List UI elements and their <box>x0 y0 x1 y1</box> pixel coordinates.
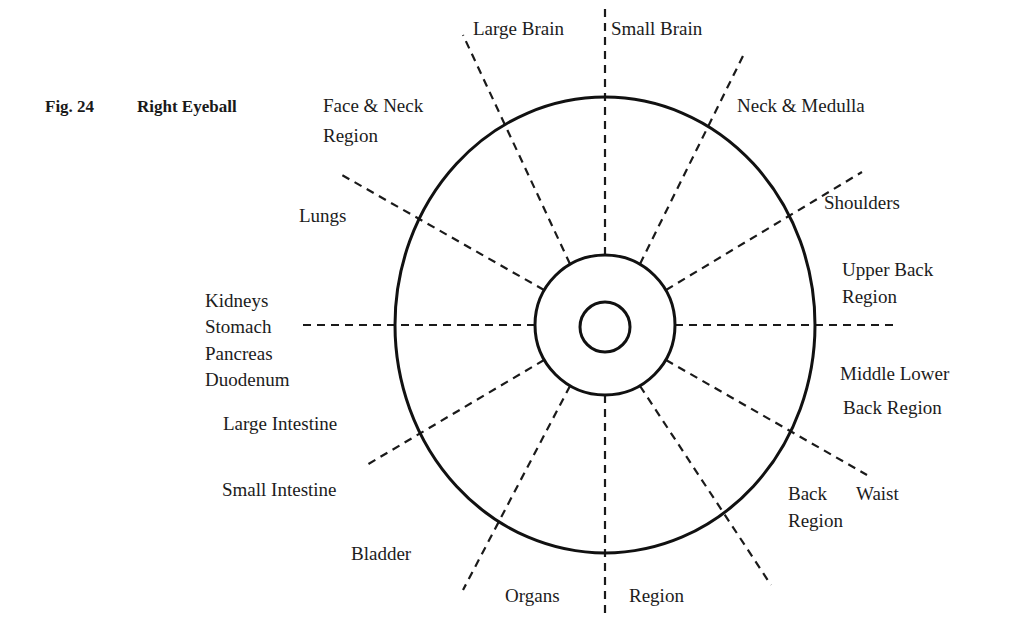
label-organs: Organs <box>505 585 560 606</box>
spoke-upper-left-60 <box>463 35 570 264</box>
label-neck-medulla: Neck & Medulla <box>737 95 865 116</box>
label-lungs: Lungs <box>299 205 347 226</box>
spoke-lower-left-30 <box>365 360 544 466</box>
label-upper-back-line2: Region <box>842 286 897 307</box>
label-small-brain: Small Brain <box>611 18 703 39</box>
label-stomach: Stomach <box>205 316 272 337</box>
label-region-bottom: Region <box>629 585 684 606</box>
middle-ring <box>535 255 675 395</box>
spoke-upper-left-30 <box>342 175 544 290</box>
label-duodenum: Duodenum <box>205 369 290 390</box>
spoke-upper-right-60 <box>640 56 743 264</box>
label-bladder: Bladder <box>351 543 412 564</box>
iridology-diagram: Fig. 24 Right Eyeball Large Brain Small … <box>0 0 1019 635</box>
label-large-intestine: Large Intestine <box>223 413 337 434</box>
label-back-region: Region <box>788 510 843 531</box>
label-large-brain: Large Brain <box>473 18 564 39</box>
figure-title: Right Eyeball <box>137 97 237 116</box>
label-middle-lower-line1: Middle Lower <box>840 363 950 384</box>
label-back: Back <box>788 483 828 504</box>
label-middle-lower-line2: Back Region <box>843 397 942 418</box>
spoke-lower-right-30 <box>666 360 867 475</box>
label-kidneys: Kidneys <box>205 290 268 311</box>
spoke-lower-right-60 <box>640 386 771 585</box>
label-shoulders: Shoulders <box>824 192 900 213</box>
figure-number: Fig. 24 <box>45 97 95 116</box>
label-face-neck-line1: Face & Neck <box>323 95 424 116</box>
spoke-upper-right-30 <box>666 172 862 290</box>
pupil-ring <box>580 302 630 352</box>
spoke-lower-left-60 <box>463 386 570 590</box>
label-pancreas: Pancreas <box>205 343 273 364</box>
label-upper-back-line1: Upper Back <box>842 259 934 280</box>
label-small-intestine: Small Intestine <box>222 479 337 500</box>
label-waist: Waist <box>856 483 900 504</box>
label-face-neck-line2: Region <box>323 125 378 146</box>
